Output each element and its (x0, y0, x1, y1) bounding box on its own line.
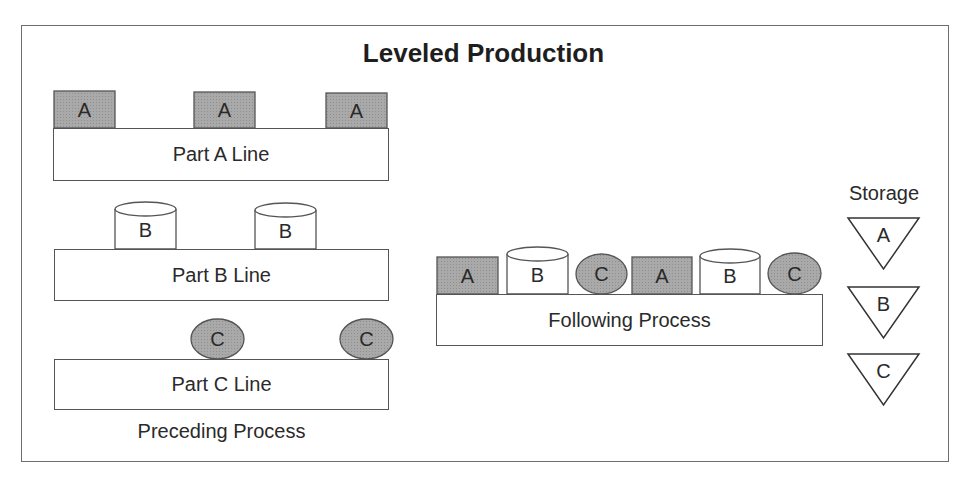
part-b-cylinder-icon: B (255, 203, 316, 249)
svg-text:B: B (279, 220, 292, 242)
storage-b-triangle-icon: B (848, 287, 919, 338)
part-b-cylinder-icon: B (507, 247, 568, 294)
part-c-ellipse-icon: C (576, 254, 627, 294)
svg-text:A: A (218, 99, 232, 121)
svg-text:C: C (876, 360, 890, 382)
svg-text:A: A (461, 265, 475, 287)
svg-text:B: B (877, 293, 890, 315)
svg-text:C: C (787, 263, 801, 285)
svg-text:C: C (594, 263, 608, 285)
part-c-ellipse-icon: C (768, 253, 821, 294)
parts-layer: AAABBCCABCABCABC (0, 0, 967, 479)
part-c-ellipse-icon: C (191, 319, 244, 359)
part-a-box-icon: A (54, 91, 115, 128)
part-c-ellipse-icon: C (340, 319, 393, 359)
svg-text:B: B (723, 265, 736, 287)
part-b-cylinder-icon: B (700, 249, 760, 294)
leveled-production-diagram: Leveled Production Part A Line Part B Li… (0, 0, 967, 479)
part-a-box-icon: A (326, 93, 387, 128)
storage-c-triangle-icon: C (848, 354, 919, 405)
svg-text:A: A (350, 100, 364, 122)
svg-text:C: C (359, 328, 373, 350)
storage-a-triangle-icon: A (848, 218, 919, 269)
svg-text:C: C (210, 328, 224, 350)
part-a-box-icon: A (632, 257, 692, 294)
svg-text:A: A (655, 265, 669, 287)
svg-text:B: B (531, 264, 544, 286)
part-b-cylinder-icon: B (115, 202, 176, 249)
part-a-box-icon: A (437, 257, 498, 294)
svg-text:B: B (139, 219, 152, 241)
part-a-box-icon: A (194, 92, 255, 128)
svg-text:A: A (78, 99, 92, 121)
svg-text:A: A (877, 224, 891, 246)
